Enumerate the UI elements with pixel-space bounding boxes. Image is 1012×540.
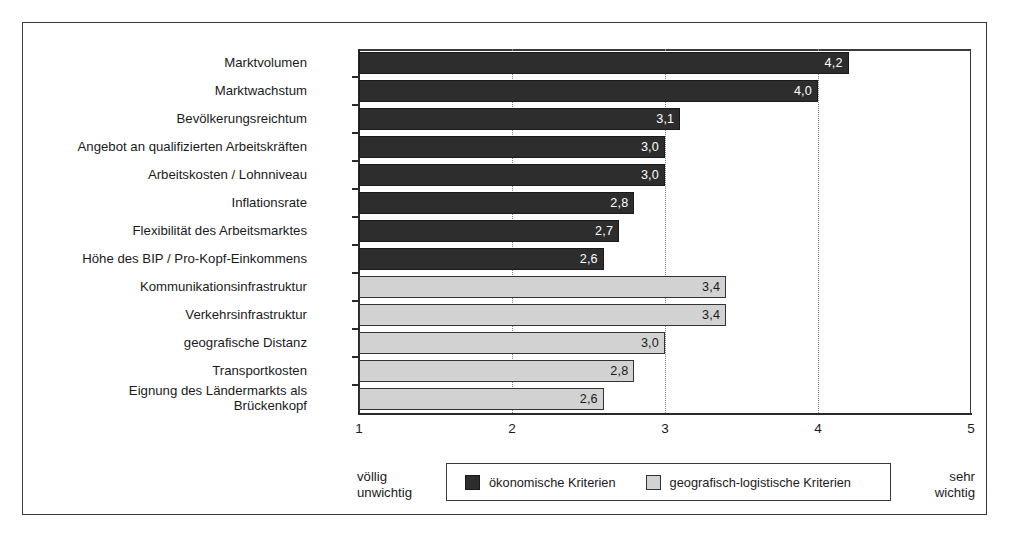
bar: 2,8 [359, 360, 634, 382]
chart-figure: MarktvolumenMarktwachstumBevölkerungsrei… [22, 22, 987, 515]
bar: 4,0 [359, 80, 818, 102]
bar-value-label: 3,4 [702, 280, 725, 294]
plot-frame-right [970, 49, 971, 413]
bar: 3,0 [359, 332, 665, 354]
category-label: geografische Distanz [21, 335, 307, 350]
plot-area: 4,24,03,13,03,02,82,72,63,43,43,02,82,6 … [359, 49, 971, 413]
category-label: Marktvolumen [21, 55, 307, 70]
gridline-3 [665, 49, 667, 413]
category-label: Kommunikationsinfrastruktur [21, 279, 307, 294]
category-label: Bevölkerungsreichtum [21, 111, 307, 126]
y-tick [352, 104, 359, 106]
legend-swatch-geo-icon [646, 475, 661, 490]
legend-swatch-econ-icon [465, 475, 480, 490]
bar-value-label: 2,7 [595, 224, 618, 238]
x-tick-label: 2 [508, 421, 516, 436]
bar: 2,7 [359, 220, 619, 242]
bar: 3,0 [359, 136, 665, 158]
bar-value-label: 2,6 [580, 252, 603, 266]
category-label: Verkehrsinfrastruktur [21, 307, 307, 322]
bar-value-label: 3,0 [641, 168, 664, 182]
y-tick [352, 132, 359, 134]
gridline-4 [818, 49, 820, 413]
bar-value-label: 3,1 [656, 112, 679, 126]
bar: 2,8 [359, 192, 634, 214]
y-tick [352, 244, 359, 246]
y-tick [352, 216, 359, 218]
category-label: Transportkosten [21, 363, 307, 378]
bar: 3,4 [359, 304, 726, 326]
x-tick-label: 4 [814, 421, 822, 436]
y-tick [352, 272, 359, 274]
y-tick [352, 384, 359, 386]
x-tick-label: 3 [661, 421, 669, 436]
y-tick [352, 76, 359, 78]
category-label: Arbeitskosten / Lohnniveau [21, 167, 307, 182]
category-label: Angebot an qualifizierten Arbeitskräften [21, 139, 307, 154]
x-axis-line [358, 413, 972, 415]
bar-value-label: 4,0 [794, 84, 817, 98]
bar: 3,0 [359, 164, 665, 186]
bar-value-label: 3,4 [702, 308, 725, 322]
bar-value-label: 2,8 [610, 364, 633, 378]
bar: 2,6 [359, 248, 604, 270]
category-label: Inflationsrate [21, 195, 307, 210]
bar-value-label: 3,0 [641, 336, 664, 350]
x-tick-label: 1 [355, 421, 363, 436]
bar-value-label: 2,8 [610, 196, 633, 210]
category-label: Marktwachstum [21, 83, 307, 98]
bar: 3,1 [359, 108, 680, 130]
chart-legend: ökonomische Kriterien geografisch-logist… [446, 463, 891, 501]
category-label: Höhe des BIP / Pro-Kopf-Einkommens [21, 251, 307, 266]
bar: 2,6 [359, 388, 604, 410]
bar: 3,4 [359, 276, 726, 298]
bar-value-label: 2,6 [580, 392, 603, 406]
x-tick-label: 5 [967, 421, 975, 436]
y-tick [352, 188, 359, 190]
category-label: Eignung des Ländermarkts als Brückenkopf [21, 383, 307, 413]
bar-value-label: 4,2 [824, 56, 847, 70]
bar: 4,2 [359, 52, 849, 74]
scale-anchor-low: völlig unwichtig [357, 469, 412, 501]
y-tick [352, 356, 359, 358]
y-tick [352, 300, 359, 302]
legend-label-econ: ökonomische Kriterien [489, 475, 616, 490]
category-label: Flexibilität des Arbeitsmarktes [21, 223, 307, 238]
legend-label-geo: geografisch-logistische Kriterien [670, 475, 851, 490]
y-tick [352, 328, 359, 330]
category-label-column: MarktvolumenMarktwachstumBevölkerungsrei… [23, 49, 315, 413]
scale-anchor-high: sehr wichtig [885, 469, 975, 501]
legend-entry-geo: geografisch-logistische Kriterien [646, 475, 851, 490]
y-tick [352, 160, 359, 162]
bar-value-label: 3,0 [641, 140, 664, 154]
legend-entry-econ: ökonomische Kriterien [465, 475, 616, 490]
